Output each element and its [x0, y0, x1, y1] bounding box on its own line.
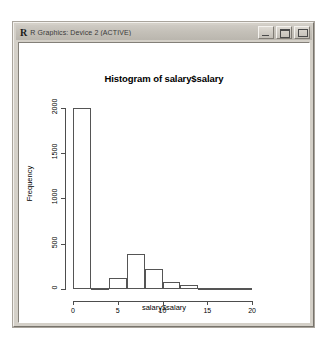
histogram-bar: [145, 269, 163, 289]
window-title-bar[interactable]: R R Graphics: Device 2 (ACTIVE): [16, 25, 312, 40]
x-axis-tick: [163, 301, 164, 305]
x-axis-tick: [118, 301, 119, 305]
y-tick-label: 1500: [51, 139, 58, 163]
y-axis-line: [65, 108, 66, 290]
maximize-button[interactable]: [276, 26, 292, 39]
histogram-bar: [91, 288, 109, 290]
y-tick-label: 1000: [51, 185, 58, 209]
chart-title: Histogram of salary$salary: [19, 73, 309, 84]
histogram-bar: [73, 108, 91, 289]
histogram-bar: [109, 278, 127, 289]
r-graphics-window: R R Graphics: Device 2 (ACTIVE) Histogra…: [13, 22, 314, 327]
y-axis-tick: [61, 289, 65, 290]
x-tick-label: 15: [197, 307, 217, 314]
window-title: R Graphics: Device 2 (ACTIVE): [30, 29, 258, 36]
x-tick-label: 20: [242, 307, 262, 314]
y-axis-tick: [61, 244, 65, 245]
x-tick-label: 5: [108, 307, 128, 314]
histogram-plot: Histogram of salary$salary salary$salary…: [19, 43, 309, 322]
y-axis-tick: [61, 108, 65, 109]
x-tick-label: 0: [63, 307, 83, 314]
graphics-canvas: Histogram of salary$salary salary$salary…: [18, 42, 310, 323]
y-tick-label: 500: [51, 230, 58, 254]
minimize-button[interactable]: [258, 26, 274, 39]
x-axis-tick: [73, 301, 74, 305]
histogram-bar: [127, 254, 145, 289]
histogram-bar: [216, 288, 234, 290]
r-logo-icon: R: [20, 28, 27, 38]
histogram-bar: [180, 285, 198, 289]
y-axis-label: Frequency: [25, 154, 34, 214]
y-axis-tick: [61, 198, 65, 199]
y-tick-label: 0: [51, 276, 58, 300]
histogram-bar: [198, 288, 216, 290]
x-axis-tick: [252, 301, 253, 305]
y-tick-label: 2000: [51, 94, 58, 118]
histogram-bar: [234, 288, 252, 290]
x-axis-tick: [207, 301, 208, 305]
y-axis-tick: [61, 153, 65, 154]
close-button[interactable]: [294, 26, 310, 39]
x-tick-label: 10: [153, 307, 173, 314]
histogram-bar: [163, 282, 181, 289]
